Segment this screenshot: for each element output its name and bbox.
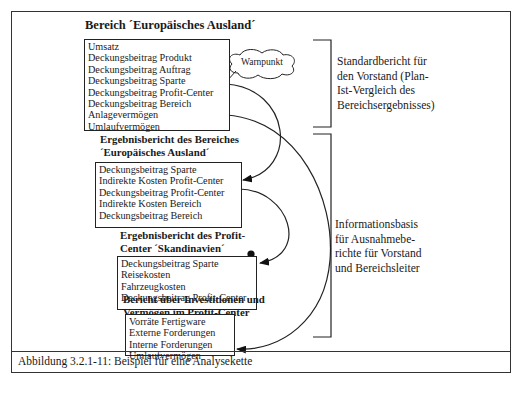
warnpunkt-callout: Warnpunkt (241, 57, 283, 67)
list-item: Indirekte Kosten Bereich (99, 198, 239, 209)
bracket-label-standardbericht: Standardbericht für den Vorstand (Plan- … (337, 55, 435, 113)
list-item: Umlaufvermögen (88, 121, 227, 132)
report-box-investitionen: Vorräte Fertigware Externe Forderungen I… (125, 314, 235, 356)
text-line: Ist-Vergleich des (337, 84, 435, 99)
text-line: Informationsbasis (335, 218, 422, 233)
list-item: Deckungsbeitrag Profit-Center (88, 87, 227, 98)
list-item: Reisekosten (121, 269, 254, 280)
text-line: Standardbericht für (337, 55, 435, 70)
title-line: ´Europäisches Ausland´ (100, 146, 239, 159)
text-line: für Ausnahmebe- (335, 233, 422, 248)
list-item: Umsatz (88, 41, 227, 52)
report-box-bereich: Umsatz Deckungsbeitrag Produkt Deckungsb… (84, 39, 230, 131)
list-item: Deckungsbeitrag Auftrag (88, 64, 227, 75)
title-line: Ergebnisbericht des Profit- (120, 229, 245, 242)
bracket-label-informationsbasis: Informationsbasis für Ausnahmebe- richte… (335, 218, 422, 276)
text-line: und Bereichsleiter (335, 262, 422, 277)
list-item: Deckungsbeitrag Sparte (121, 258, 254, 269)
report-title-profit-center: Ergebnisbericht des Profit- Center ´Skan… (120, 229, 245, 254)
list-item: Deckungsbeitrag Produkt (88, 52, 227, 63)
list-item: Interne Forderungen (129, 339, 232, 350)
list-item: Deckungsbeitrag Bereich (88, 98, 227, 109)
list-item: Vorräte Fertigware (129, 316, 232, 327)
text-line: den Vorstand (Plan- (337, 70, 435, 85)
figure-caption: Abbildung 3.2.1-11: Beispiel für eine An… (11, 351, 511, 373)
report-title-ergebnis-bereich: Ergebnisbericht des Bereiches ´Europäisc… (100, 133, 239, 158)
report-box-ergebnis-bereich: Deckungsbeitrag Sparte Indirekte Kosten … (95, 162, 242, 228)
text-line: Bereichsergebnisses) (337, 99, 435, 114)
list-item: Deckungsbeitrag Profit-Center (99, 187, 239, 198)
list-item: Deckungsbeitrag Bereich (99, 210, 239, 221)
title-line: Bericht über Investitionen und (123, 293, 265, 306)
list-item: Externe Forderungen (129, 327, 232, 338)
title-line: Center ´Skandinavien´ (120, 242, 245, 255)
list-item: Deckungsbeitrag Sparte (88, 75, 227, 86)
title-line: Ergebnisbericht des Bereiches (100, 133, 239, 146)
text-line: richte für Vorstand (335, 247, 422, 262)
report-title-bereich: Bereich ´Europäisches Ausland´ (85, 18, 255, 33)
list-item: Anlagevermögen (88, 109, 227, 120)
list-item: Deckungsbeitrag Sparte (99, 164, 239, 175)
list-item: Fahrzeugkosten (121, 281, 254, 292)
list-item: Indirekte Kosten Profit-Center (99, 175, 239, 186)
